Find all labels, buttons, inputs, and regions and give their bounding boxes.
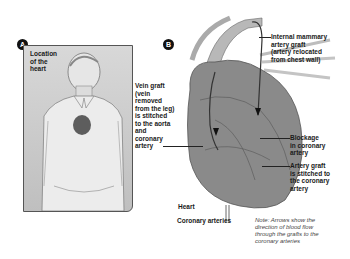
vein-graft-leader (163, 146, 203, 147)
vein-graft-label: Vein graft (vein removed from the leg) i… (135, 82, 174, 150)
blockage-leader (260, 138, 290, 139)
heart-shape (188, 60, 303, 208)
artery-graft-leader (262, 166, 290, 167)
diagram-canvas: A Location of the heart B (0, 0, 350, 259)
blood-flow-note: Note: Arrows show the direction of blood… (255, 217, 319, 245)
mammary-graft-label: Internal mammary artery graft (artery re… (271, 33, 327, 63)
mammary-graft-leader (259, 37, 271, 38)
coronary-arteries-label: Coronary arteries (177, 217, 231, 225)
heart-label: Heart (178, 203, 195, 211)
artery-graft-label: Artery graft is stitched to the coronary… (290, 162, 330, 192)
blockage-label: Blockage in coronary artery (290, 134, 325, 157)
